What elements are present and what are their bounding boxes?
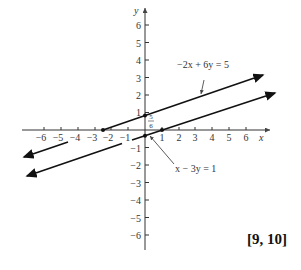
- svg-text:−1: −1: [120, 132, 131, 143]
- svg-text:5: 5: [136, 38, 141, 49]
- line-1-leader: [201, 80, 204, 94]
- graph: −6 −5 −4 −3 −2 −1 1 2 3 4 5 6 x 6 5 4 3 …: [0, 0, 301, 270]
- line-2-x-intercept: [160, 128, 164, 132]
- svg-text:−5: −5: [53, 132, 64, 143]
- svg-text:−4: −4: [70, 132, 81, 143]
- line-2-equation: x − 3y = 1: [175, 163, 216, 174]
- svg-text:4: 4: [210, 132, 215, 143]
- svg-text:−5: −5: [130, 213, 141, 224]
- answer-reference: [9, 10]: [247, 231, 287, 248]
- svg-text:6: 6: [136, 20, 141, 31]
- line-2-left: [27, 144, 122, 177]
- svg-text:2: 2: [136, 90, 141, 101]
- svg-text:−6: −6: [130, 230, 141, 241]
- svg-text:2: 2: [177, 132, 182, 143]
- line-1-left: [24, 142, 68, 157]
- svg-text:−4: −4: [130, 195, 141, 206]
- line-2-main: [132, 93, 275, 140]
- x-axis-label: x: [258, 132, 264, 143]
- line-1-equation: −2x + 6y = 5: [177, 59, 229, 70]
- y-axis-label: y: [133, 5, 139, 16]
- svg-text:−3: −3: [87, 132, 98, 143]
- svg-text:3: 3: [136, 73, 141, 84]
- svg-text:−2: −2: [103, 132, 114, 143]
- svg-text:−2: −2: [130, 160, 141, 171]
- svg-text:5: 5: [227, 132, 232, 143]
- line-2-y-intercept: [143, 134, 147, 138]
- line-1-main: [103, 75, 263, 130]
- intercept-fraction-label: 5 6: [148, 113, 154, 130]
- svg-text:4: 4: [136, 55, 141, 66]
- svg-text:3: 3: [193, 132, 198, 143]
- svg-text:−6: −6: [36, 132, 47, 143]
- line-1-y-intercept: [143, 113, 147, 117]
- svg-text:−3: −3: [130, 178, 141, 189]
- line-1-x-intercept: [101, 128, 105, 132]
- svg-text:6: 6: [149, 122, 153, 130]
- svg-text:6: 6: [244, 132, 249, 143]
- svg-text:−1: −1: [130, 143, 141, 154]
- svg-text:1: 1: [160, 132, 165, 143]
